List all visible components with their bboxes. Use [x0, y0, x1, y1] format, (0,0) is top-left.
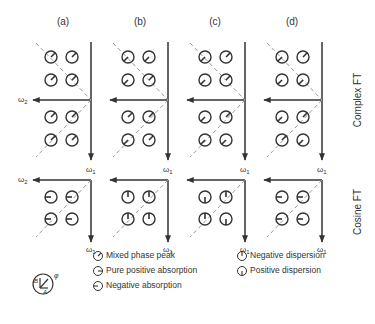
complex-c-peak-phase-tick — [201, 57, 205, 61]
complex-d-diagonal — [267, 100, 322, 157]
mixed-phase-icon-tick — [98, 253, 101, 256]
legend-positive-dispersion-label: Positive dispersion — [250, 265, 321, 275]
complex-b-peak-phase-tick — [124, 80, 128, 84]
complex-d-peak-phase-tick — [278, 57, 282, 61]
row-label-complex-ft: Complex FT — [352, 73, 363, 127]
complex-d-peak-phase-tick — [299, 140, 303, 144]
complex-a-peak-phase-tick — [51, 53, 55, 57]
phase-symbol-b-label: B — [34, 278, 38, 284]
complex-d-peak-phase-tick — [278, 117, 282, 121]
legend-positive-absorption-label: Pure positive absorption — [106, 265, 197, 275]
complex-c-peak-phase-tick — [201, 80, 205, 84]
complex-d-antidiagonal — [267, 43, 322, 100]
complex-c-antidiagonal — [190, 43, 245, 100]
legend-negative-dispersion-label: Negative dispersion — [250, 250, 325, 260]
complex-a-peak-phase-tick — [51, 113, 55, 117]
cosine-w2-label: ω2 — [18, 175, 28, 185]
cosine-a-diagonal — [36, 180, 91, 237]
phase-symbol-phi-label: φ — [54, 272, 59, 280]
figure-canvas: (a)(b)(c)(d)ω1ω1ω1ω1ω1ω1ω1ω1ω2ω2Complex … — [0, 0, 375, 324]
legend-negative-absorption-label: Negative absorption — [106, 280, 182, 290]
cosine-c-diagonal — [190, 180, 245, 237]
complex-b-diagonal — [113, 100, 168, 157]
complex-a-antidiagonal — [36, 43, 91, 100]
complex-b-peak-phase-tick — [128, 113, 132, 117]
complex-c-w1-label: ω1 — [240, 165, 250, 175]
cosine-b-diagonal — [113, 180, 168, 237]
cosine-d-diagonal — [267, 180, 322, 237]
complex-a-peak-phase-tick — [72, 53, 76, 57]
complex-b-peak-phase-tick — [145, 57, 149, 61]
complex-d-peak-phase-tick — [278, 80, 282, 84]
complex-w2-label: ω2 — [18, 95, 28, 105]
legend-mixed-phase-label: Mixed phase peak — [106, 250, 175, 260]
complex-d-peak-phase-tick — [303, 53, 307, 57]
complex-b-peak-phase-tick — [124, 57, 128, 61]
complex-a-diagonal — [36, 100, 91, 157]
column-label-d: (d) — [286, 16, 298, 27]
complex-c-peak-phase-tick — [222, 140, 226, 144]
complex-c-diagonal — [190, 100, 245, 157]
phase-symbol-a-label: A — [42, 289, 47, 295]
column-label-c: (c) — [209, 16, 221, 27]
complex-b-peak-phase-tick — [149, 76, 153, 80]
complex-b-peak-phase-tick — [149, 136, 153, 140]
complex-d-peak-phase-tick — [299, 80, 303, 84]
complex-a-w1-label: ω1 — [86, 165, 96, 175]
complex-c-peak-phase-tick — [226, 76, 230, 80]
complex-c-peak-phase-tick — [201, 117, 205, 121]
complex-a-peak-phase-tick — [51, 76, 55, 80]
row-label-cosine-ft: Cosine FT — [352, 189, 363, 235]
complex-b-w1-label: ω1 — [163, 165, 173, 175]
column-label-b: (b) — [134, 16, 146, 27]
complex-b-antidiagonal — [113, 43, 168, 100]
column-label-a: (a) — [57, 16, 69, 27]
complex-a-peak-phase-tick — [72, 76, 76, 80]
complex-d-w1-label: ω1 — [317, 165, 327, 175]
complex-a-peak-phase-tick — [72, 136, 76, 140]
complex-c-peak-phase-tick — [226, 53, 230, 57]
phase-symbol-resultant — [40, 279, 48, 288]
